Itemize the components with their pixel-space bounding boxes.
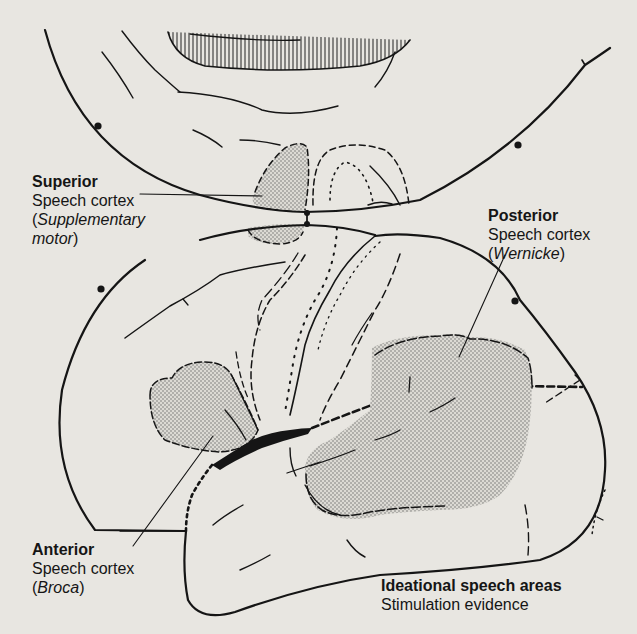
label-anterior-speech-cortex: Anterior Speech cortex (Broca)	[32, 540, 134, 597]
label-posterior-speech-cortex: Posterior Speech cortex (Wernicke)	[488, 206, 590, 263]
lateral-view-hemisphere	[59, 224, 605, 615]
label-superior-speech-cortex: Superior Speech cortex (Supplementary mo…	[32, 172, 145, 248]
diagram-canvas: Superior Speech cortex (Supplementary mo…	[0, 0, 637, 634]
label-ideational-speech-areas: Ideational speech areas Stimulation evid…	[381, 576, 562, 614]
brain-illustration	[0, 0, 637, 634]
